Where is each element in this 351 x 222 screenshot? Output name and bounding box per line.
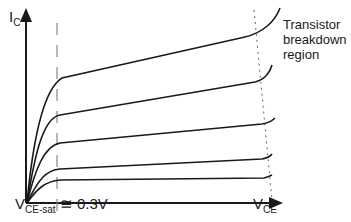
curve-ib5 [27,8,280,203]
breakdown-label-line1: Transistor [283,17,347,32]
breakdown-dotted-line [254,10,272,200]
saturation-label-main: V [15,195,25,212]
x-axis-label: VCE [253,195,277,212]
y-axis-label: IC [9,8,20,25]
x-axis-label-subscript: CE [263,204,277,215]
y-axis-label-subscript: C [13,17,20,28]
saturation-label-value: ≅ 0.3V [56,195,108,212]
saturation-label: VCE-sat ≅ 0.3V [15,195,108,213]
breakdown-label-line2: breakdown [283,32,347,47]
y-axis-arrow-icon [20,8,32,22]
saturation-label-subscript: CE-sat [25,204,56,215]
breakdown-label: Transistor breakdown region [283,17,347,62]
x-axis-label-main: V [253,195,263,212]
breakdown-label-line3: region [283,47,347,62]
